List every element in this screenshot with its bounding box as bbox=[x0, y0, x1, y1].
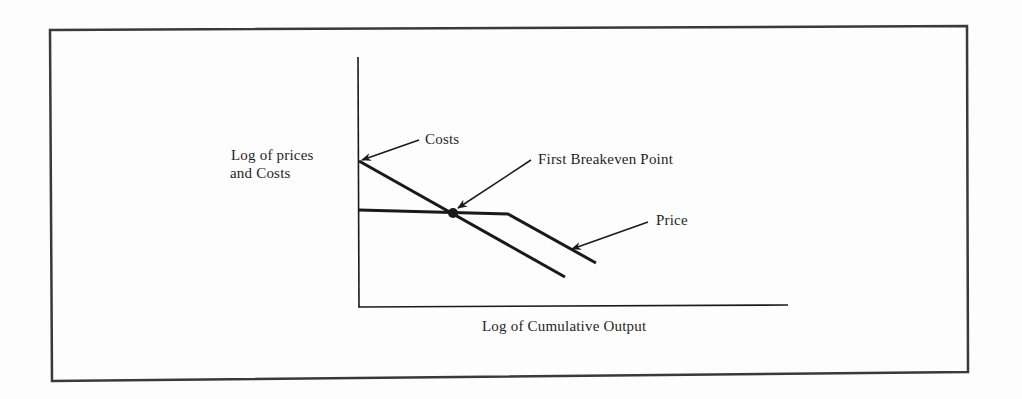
breakeven-annotation: First Breakeven Point bbox=[538, 150, 673, 168]
price-annotation: Price bbox=[656, 211, 688, 229]
price-line bbox=[359, 210, 596, 263]
breakeven-arrow-icon bbox=[458, 160, 531, 208]
y-axis-label-line2: and Costs bbox=[230, 164, 291, 182]
y-axis bbox=[358, 57, 359, 307]
x-axis-label: Log of Cumulative Output bbox=[482, 317, 646, 335]
costs-line bbox=[359, 161, 565, 277]
x-axis bbox=[358, 305, 788, 307]
y-axis-label-line1: Log of prices bbox=[231, 146, 314, 164]
costs-annotation: Costs bbox=[425, 130, 459, 148]
costs-arrow-icon bbox=[362, 140, 419, 160]
breakeven-point-marker bbox=[448, 208, 458, 218]
figure: Log of prices and Costs Costs First Brea… bbox=[0, 0, 1022, 399]
diagram-canvas bbox=[0, 0, 1022, 399]
price-arrow-icon bbox=[572, 222, 648, 249]
